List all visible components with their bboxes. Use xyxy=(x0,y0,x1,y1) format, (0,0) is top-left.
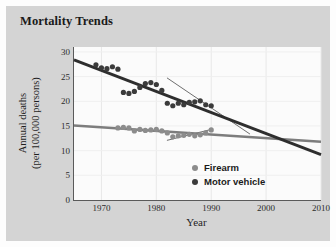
y-axis-label-line2: (per 100,000 persons) xyxy=(29,78,42,170)
chart-title: Mortality Trends xyxy=(20,14,113,29)
y-axis-label: Annual deaths (per 100,000 persons) xyxy=(14,47,44,200)
legend-marker-icon xyxy=(192,179,198,185)
legend-item-firearm[interactable]: Firearm xyxy=(192,162,265,173)
y-axis-label-line1: Annual deaths xyxy=(16,78,29,170)
x-tick-label: 1970 xyxy=(92,203,110,213)
legend-label: Firearm xyxy=(204,162,239,173)
chart-legend: FirearmMotor vehicle xyxy=(192,162,265,187)
y-tick-label: 5 xyxy=(66,170,71,180)
y-tick-label: 10 xyxy=(61,146,70,156)
x-axis-label: Year xyxy=(73,216,320,228)
x-tick-label: 2000 xyxy=(257,203,275,213)
y-tick-label: 15 xyxy=(61,121,70,131)
legend-marker-icon xyxy=(192,165,198,171)
legend-label: Motor vehicle xyxy=(204,176,265,187)
y-tick-label: 25 xyxy=(61,72,70,82)
y-tick-label: 20 xyxy=(61,96,70,106)
x-tick-label: 1990 xyxy=(202,203,220,213)
y-tick-label: 0 xyxy=(66,195,71,205)
x-tick-label: 1980 xyxy=(147,203,165,213)
chart-figure: Mortality Trends Annual deaths (per 100,… xyxy=(0,0,336,247)
legend-item-motor-vehicle[interactable]: Motor vehicle xyxy=(192,176,265,187)
y-tick-label: 30 xyxy=(61,47,70,57)
x-tick-label: 2010 xyxy=(312,203,330,213)
